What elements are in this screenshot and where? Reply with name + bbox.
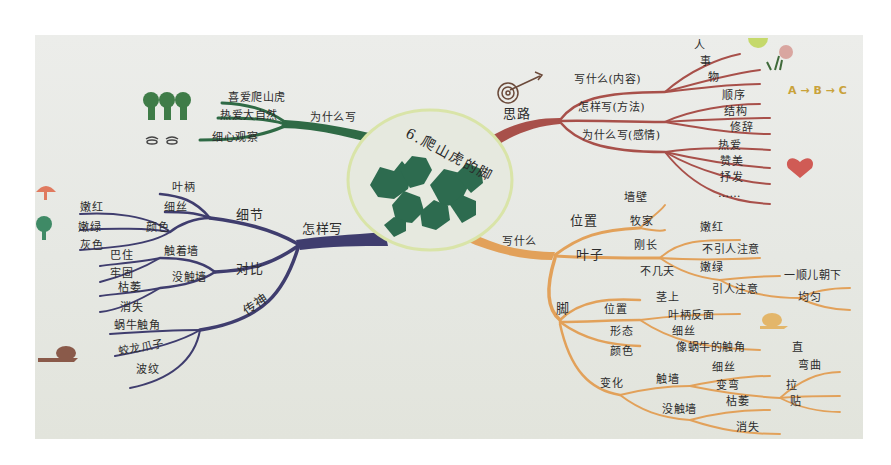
node-how-xiaoshi: 消失 <box>120 302 143 314</box>
node-what-mujia: 牧家 <box>630 216 653 228</box>
node-how-laogu: 牢固 <box>110 268 133 280</box>
node-what-jweizhi: 位置 <box>604 304 627 316</box>
node-what-bianhua: 变化 <box>600 378 623 390</box>
flower-icon <box>767 45 793 70</box>
node-what-meichuqiang: 没触墙 <box>662 404 697 416</box>
node-o-jiegou: 结构 <box>724 106 747 118</box>
node-how-bowen: 波纹 <box>136 364 159 376</box>
node-what-xiangwoniu: 像蜗牛的触角 <box>676 342 745 354</box>
node-what-jyanse: 颜色 <box>610 346 633 358</box>
node-outline-3: 为什么写(感情) <box>582 130 661 142</box>
node-what-gangzhang: 刚长 <box>634 240 657 252</box>
node-why-1: 喜爱爬山虎 <box>228 92 286 104</box>
node-outline-1: 写什么(内容) <box>574 74 641 86</box>
node-o-xiuci: 修辞 <box>730 122 753 134</box>
mind-map-drawing <box>0 0 891 465</box>
node-why-3: 细心观察 <box>212 132 258 144</box>
node-what-yezi: 叶子 <box>576 248 603 262</box>
node-what-junyun: 均匀 <box>798 292 821 304</box>
node-how-chuzhe: 触着墙 <box>164 246 199 258</box>
node-how-woniu: 蜗牛触角 <box>114 320 160 332</box>
node-what-xiaoshi: 消失 <box>736 422 759 434</box>
snail-icon-left <box>38 346 78 362</box>
node-what-zhi: 直 <box>792 342 804 354</box>
node-what-yebingfan: 叶柄反面 <box>668 310 714 322</box>
tree-icon-left <box>36 216 52 240</box>
node-what-buyin: 不引人注意 <box>702 244 760 256</box>
node-what-yishun: 一顺儿朝下 <box>784 270 842 282</box>
node-what-kuwei: 枯萎 <box>726 396 749 408</box>
node-outline-main: 思路 <box>503 107 530 121</box>
target-arrow-icon <box>498 72 542 103</box>
node-what-wanqu: 弯曲 <box>798 360 821 372</box>
node-how-yanse: 颜色 <box>146 222 169 234</box>
heart-icon <box>787 158 813 178</box>
node-how-main: 怎样写 <box>302 222 343 236</box>
node-what-biangwan: 变弯 <box>716 380 739 392</box>
mushroom-icon <box>36 186 56 200</box>
node-how-huise: 灰色 <box>80 240 103 252</box>
node-how-meichu: 没触墙 <box>172 272 207 284</box>
node-what-jingshang: 茎上 <box>656 292 679 304</box>
node-what-nenlv: 嫩绿 <box>700 262 723 274</box>
node-how-nenhong: 嫩红 <box>80 202 103 214</box>
sequence-a-b-c: A → B → C <box>788 84 847 97</box>
node-how-bazhu: 巴住 <box>110 250 133 262</box>
node-how-nenlv: 嫩绿 <box>78 222 101 234</box>
node-what-xisi: 细丝 <box>672 326 695 338</box>
node-why-2: 热爱大自然 <box>220 110 278 122</box>
node-how-xijie: 细节 <box>236 208 263 222</box>
node-what-bujitian: 不几天 <box>640 266 675 278</box>
node-what-qiangbi: 墙壁 <box>624 192 647 204</box>
node-o-wu: 物 <box>708 72 720 84</box>
node-how-duibi: 对比 <box>236 262 263 276</box>
node-what-tie: 贴 <box>790 396 802 408</box>
node-what-jiao: 脚 <box>556 302 570 316</box>
node-what-xisi2: 细丝 <box>712 362 735 374</box>
sun-icon <box>748 38 768 48</box>
node-o-shufa: 抒发 <box>720 172 743 184</box>
node-what-la: 拉 <box>786 380 798 392</box>
node-what-weizhi: 位置 <box>570 214 597 228</box>
node-o-zanmei: 赞美 <box>720 156 743 168</box>
node-how-xisi: 细丝 <box>164 202 187 214</box>
node-outline-2: 怎样写(方法) <box>578 102 645 114</box>
node-what-yinren: 引人注意 <box>712 284 758 296</box>
node-o-shunxu: 顺序 <box>722 90 745 102</box>
node-how-yebing: 叶柄 <box>172 182 195 194</box>
node-o-shi: 事 <box>700 56 712 68</box>
node-what-chuqiang: 触墙 <box>656 374 679 386</box>
node-what-nenhong: 嫩红 <box>700 222 723 234</box>
node-why-main: 为什么写 <box>310 112 356 124</box>
snail-icon-right <box>760 313 788 329</box>
tree-icons-top-left <box>143 92 191 120</box>
eyes-icon <box>146 137 178 144</box>
node-o-ren: 人 <box>694 40 706 52</box>
node-o-reai: 热爱 <box>718 140 741 152</box>
node-o-more: …… <box>718 188 741 200</box>
node-what-main: 写什么 <box>502 236 537 248</box>
node-how-kuwei: 枯萎 <box>118 282 141 294</box>
node-what-xingtai: 形态 <box>610 326 633 338</box>
